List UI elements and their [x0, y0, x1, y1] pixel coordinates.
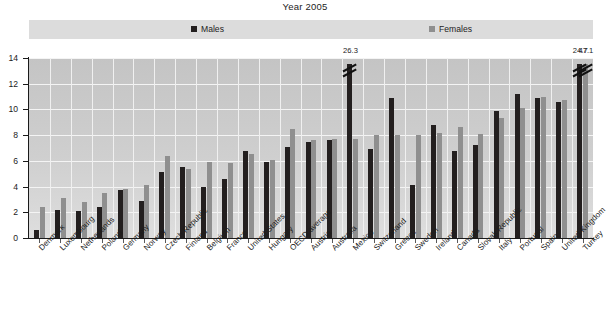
bar-female	[249, 154, 254, 238]
gridline-vertical	[133, 58, 134, 238]
bar-male	[494, 111, 499, 238]
bar-male	[556, 102, 561, 238]
y-axis-line	[28, 57, 29, 239]
bar-female	[478, 134, 483, 238]
y-axis-tick	[23, 238, 28, 239]
chart-title: Year 2005	[0, 1, 610, 12]
bar-male	[389, 98, 394, 238]
bar-male	[243, 151, 248, 238]
gridline-vertical	[447, 58, 448, 238]
legend-swatch-females	[429, 26, 435, 32]
gridline-vertical	[426, 58, 427, 238]
gridline-vertical	[71, 58, 72, 238]
legend-label-males: Males	[201, 23, 224, 35]
y-axis-tick-label: 10	[0, 104, 18, 114]
plot-area	[29, 58, 593, 238]
y-axis-tick-label: 12	[0, 79, 18, 89]
gridline-vertical	[530, 58, 531, 238]
gridline-vertical	[405, 58, 406, 238]
gridline-vertical	[50, 58, 51, 238]
bar-value-label: 26.3	[338, 46, 362, 55]
legend-item-females: Females	[429, 23, 472, 35]
legend-swatch-males	[191, 26, 197, 32]
gridline-vertical	[489, 58, 490, 238]
bar-female	[583, 64, 588, 238]
gridline-vertical	[468, 58, 469, 238]
bar-value-label: 47.1	[574, 46, 598, 55]
bar-female	[40, 207, 45, 238]
gridline-vertical	[238, 58, 239, 238]
y-axis-tick	[23, 84, 28, 85]
gridline-vertical	[301, 58, 302, 238]
bar-male	[535, 98, 540, 238]
y-axis-tick-label: 2	[0, 207, 18, 217]
gridline-vertical	[175, 58, 176, 238]
bar-male	[431, 125, 436, 238]
y-axis-tick	[23, 109, 28, 110]
gridline-horizontal	[29, 84, 593, 85]
bar-female	[332, 139, 337, 238]
gridline-horizontal	[29, 109, 593, 110]
y-axis-tick	[23, 135, 28, 136]
gridline-horizontal	[29, 135, 593, 136]
bar-female	[458, 127, 463, 238]
bar-female	[520, 108, 525, 238]
y-axis-tick	[23, 187, 28, 188]
bar-female	[290, 129, 295, 238]
bar-female	[353, 139, 358, 238]
gridline-vertical	[342, 58, 343, 238]
gridline-vertical	[572, 58, 573, 238]
y-axis-tick-label: 14	[0, 53, 18, 63]
gridline-vertical	[551, 58, 552, 238]
gridline-horizontal	[29, 58, 593, 59]
y-axis-tick-label: 6	[0, 156, 18, 166]
bar-male	[347, 64, 352, 238]
y-axis-tick-label: 4	[0, 182, 18, 192]
legend-item-males: Males	[191, 23, 224, 35]
bar-female	[541, 97, 546, 238]
gridline-vertical	[154, 58, 155, 238]
y-axis-tick-label: 0	[0, 233, 18, 243]
y-axis-tick	[23, 161, 28, 162]
legend-label-females: Females	[439, 23, 472, 35]
gridline-vertical	[363, 58, 364, 238]
bar-female	[123, 189, 128, 238]
chart-container: Year 2005 Males Females 02468101214 Denm…	[0, 0, 610, 314]
y-axis-tick	[23, 212, 28, 213]
bar-male	[473, 145, 478, 238]
bar-female	[416, 135, 421, 238]
bar-female	[437, 133, 442, 238]
bar-female	[165, 156, 170, 238]
bar-male	[34, 230, 39, 238]
gridline-vertical	[92, 58, 93, 238]
y-axis-tick	[23, 58, 28, 59]
gridline-vertical	[217, 58, 218, 238]
gridline-vertical	[113, 58, 114, 238]
bar-male	[327, 140, 332, 238]
gridline-vertical	[259, 58, 260, 238]
bar-female	[207, 162, 212, 238]
bar-female	[374, 135, 379, 238]
bar-male	[577, 64, 582, 238]
chart-legend: Males Females	[29, 20, 593, 39]
bar-female	[228, 163, 233, 238]
bar-male	[452, 151, 457, 238]
bar-female	[562, 100, 567, 238]
bar-male	[368, 149, 373, 238]
y-axis-tick-label: 8	[0, 130, 18, 140]
gridline-vertical	[384, 58, 385, 238]
